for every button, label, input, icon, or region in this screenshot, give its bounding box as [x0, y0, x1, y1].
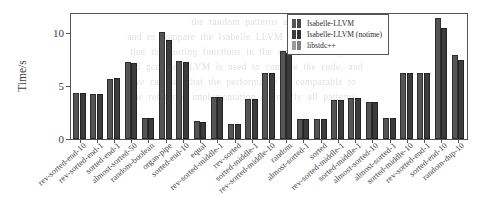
bar-series-container — [71, 14, 467, 139]
bar-group — [71, 14, 88, 139]
bar — [383, 118, 389, 139]
bar — [314, 119, 320, 139]
bar — [441, 28, 447, 139]
bar-group — [209, 14, 226, 139]
bar — [245, 99, 251, 139]
y-axis-tick-label: 0 — [59, 133, 65, 145]
bar — [372, 102, 378, 139]
legend-swatch-group — [292, 19, 302, 28]
bar-group — [415, 14, 432, 139]
bar — [200, 122, 206, 139]
bar-group — [157, 14, 174, 139]
bar-group — [105, 14, 122, 139]
x-axis-tick-labels: rev-sorted-end-10rev-sorted-end-1sorted-… — [70, 141, 468, 224]
bar-group — [433, 14, 450, 139]
bar — [142, 118, 148, 139]
y-axis-tick-label: 5 — [59, 80, 65, 92]
legend-swatch — [297, 41, 301, 50]
bar — [331, 100, 337, 139]
bar — [400, 73, 406, 139]
legend-item: libstdc++ — [292, 40, 382, 51]
bar-group — [140, 14, 157, 139]
bar — [183, 62, 189, 139]
bar-group — [260, 14, 277, 139]
bar — [114, 78, 120, 139]
bar-group — [123, 14, 140, 139]
bar — [297, 119, 303, 139]
chart-legend: Isabelle-LLVMIsabelle-LLVM (notime)libst… — [287, 14, 389, 55]
bar-group — [192, 14, 209, 139]
bar-chart-figure: Time/s 0510 rev-sorted-end-10rev-sorted-… — [0, 0, 489, 224]
legend-swatch — [292, 30, 296, 39]
bar — [280, 51, 286, 139]
legend-swatch — [297, 19, 301, 28]
bar-group — [88, 14, 105, 139]
bar — [321, 119, 327, 139]
bar — [194, 121, 200, 139]
bar — [407, 73, 413, 139]
bar — [417, 73, 423, 139]
bar — [435, 18, 441, 139]
y-axis-tick — [66, 139, 71, 140]
bar — [355, 98, 361, 139]
bar — [90, 94, 96, 139]
bar — [424, 73, 430, 139]
bar — [235, 124, 241, 139]
legend-item: Isabelle-LLVM (notime) — [292, 29, 382, 40]
y-axis-tick-label: 10 — [53, 27, 64, 39]
legend-swatch — [297, 30, 301, 39]
bar — [390, 118, 396, 139]
bar — [458, 60, 464, 139]
bar — [159, 32, 165, 139]
bar — [348, 98, 354, 139]
bar — [148, 118, 154, 139]
bar — [131, 63, 137, 139]
bar — [166, 40, 172, 139]
bar — [286, 53, 292, 139]
bar — [452, 55, 458, 139]
y-axis-title: Time/s — [16, 60, 28, 92]
legend-label: Isabelle-LLVM (notime) — [307, 30, 382, 39]
bar — [252, 99, 258, 139]
bar — [125, 62, 131, 139]
bar — [97, 94, 103, 139]
bar — [217, 97, 223, 139]
bar — [80, 93, 86, 139]
legend-label: Isabelle-LLVM — [307, 19, 354, 28]
bar-group — [450, 14, 467, 139]
legend-swatch — [292, 19, 296, 28]
legend-label: libstdc++ — [307, 41, 336, 50]
bar-group — [226, 14, 243, 139]
bar — [269, 73, 275, 139]
bar — [107, 79, 113, 139]
bar — [176, 61, 182, 139]
bar — [228, 124, 234, 139]
bar-group — [174, 14, 191, 139]
bar — [366, 102, 372, 139]
legend-swatch-group — [292, 41, 302, 50]
bar-group — [243, 14, 260, 139]
bar — [211, 97, 217, 139]
bar — [73, 93, 79, 139]
bar-group — [398, 14, 415, 139]
bar — [338, 100, 344, 139]
plot-area: 0510 — [70, 13, 468, 140]
legend-item: Isabelle-LLVM — [292, 18, 382, 29]
bar — [303, 119, 309, 139]
legend-swatch — [292, 41, 296, 50]
legend-swatch-group — [292, 30, 302, 39]
bar — [262, 73, 268, 139]
